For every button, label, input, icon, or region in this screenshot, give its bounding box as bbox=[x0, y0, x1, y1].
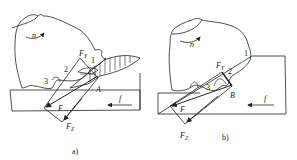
rotation-label-b: n bbox=[190, 40, 194, 49]
grain-1-label-b: 1 bbox=[244, 49, 248, 58]
resultant-force-arrow-b bbox=[172, 85, 232, 106]
fy-label-b: FY bbox=[215, 61, 225, 71]
resultant-label-b: F bbox=[179, 105, 185, 114]
fz-label-a: FZ bbox=[65, 122, 75, 132]
point-a-label: A bbox=[95, 85, 101, 94]
panel-a: n FY 1 2 3 A F FZ f a) bbox=[10, 15, 140, 157]
grain-1-label-a: 1 bbox=[91, 56, 95, 65]
fz-arrow-b bbox=[187, 96, 218, 122]
grain-2-label-b: 2 bbox=[228, 67, 232, 76]
resultant-label-a: F bbox=[57, 104, 63, 113]
grinding-wheel-a bbox=[15, 15, 106, 89]
fz-label-b: FZ bbox=[179, 131, 189, 141]
grain-3-label-a: 3 bbox=[44, 77, 48, 86]
feed-label-a: f bbox=[119, 94, 123, 103]
grain-2-label-a: 2 bbox=[64, 65, 68, 74]
caption-b: b) bbox=[222, 133, 229, 142]
grain-3-label-b: 3 bbox=[206, 83, 210, 92]
panel-b: n FY 1 2 3 B F FZ f b) bbox=[158, 19, 286, 143]
feed-label-b: f bbox=[264, 94, 268, 103]
caption-a: a) bbox=[72, 147, 79, 156]
grinding-force-diagram: n FY 1 2 3 A F FZ f a) n FY 1 2 3 bbox=[0, 0, 297, 160]
point-b-label: B bbox=[230, 91, 235, 100]
fz-arrow-a bbox=[64, 98, 82, 120]
fy-label-a: FY bbox=[78, 49, 88, 59]
rotation-label-a: n bbox=[32, 31, 36, 40]
